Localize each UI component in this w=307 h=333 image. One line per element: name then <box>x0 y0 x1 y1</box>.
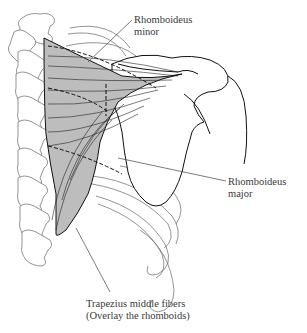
label-trapezius-middle-fibers: Trapezius middle fibers (Overlay the rho… <box>86 298 190 322</box>
label-rhomboideus-minor-line2: minor <box>134 26 192 38</box>
label-rhomboideus-major-line2: major <box>228 188 286 200</box>
label-rhomboideus-major: Rhomboideus major <box>228 176 286 200</box>
label-rhomboideus-major-line1: Rhomboideus <box>228 176 286 188</box>
leader-trapezius <box>76 228 110 292</box>
label-trapezius-line2: (Overlay the rhomboids) <box>86 310 190 322</box>
label-rhomboideus-minor: Rhomboideus minor <box>134 14 192 38</box>
label-trapezius-line1: Trapezius middle fibers <box>86 298 190 310</box>
label-rhomboideus-minor-line1: Rhomboideus <box>134 14 192 26</box>
anatomy-figure <box>0 0 307 333</box>
